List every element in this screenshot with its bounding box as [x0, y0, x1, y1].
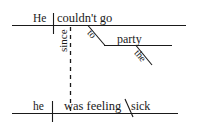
word-prepositional-object: party: [117, 33, 142, 45]
word-conjunction: since: [58, 29, 69, 52]
sentence-diagram-canvas: He couldn't go since to party the he was…: [0, 0, 199, 136]
word-main-predicate: couldn't go: [57, 12, 112, 25]
word-subject-complement: sick: [131, 100, 150, 112]
word-subordinate-subject: he: [33, 101, 44, 113]
word-subordinate-predicate: was feeling: [64, 100, 121, 113]
word-main-subject: He: [33, 13, 46, 25]
